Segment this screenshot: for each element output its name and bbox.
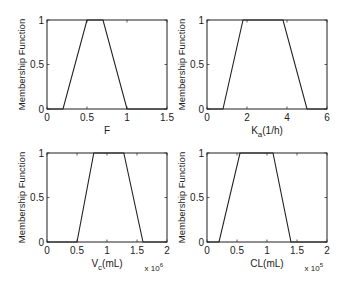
x-tick-label: 1.5 — [130, 245, 144, 256]
x-multiplier-label: x 106 — [145, 262, 164, 273]
y-tick-label: 1 — [38, 148, 44, 159]
x-multiplier-label: x 105 — [305, 262, 324, 273]
x-tick-label: 0.5 — [70, 245, 84, 256]
y-tick-label: 0.5 — [30, 192, 44, 203]
y-tick-label: 0 — [198, 237, 204, 248]
membership-curve — [47, 153, 167, 242]
panel-ka: 024600.51Membership FunctionKa(1/h) — [176, 15, 330, 140]
y-tick-label: 0.5 — [190, 59, 204, 70]
x-tick-label: 0 — [44, 245, 50, 256]
x-tick-label: 0 — [44, 112, 50, 123]
x-tick-label: 0 — [204, 245, 210, 256]
x-tick-label: 2 — [244, 112, 250, 123]
panel-f: 00.511.500.51Membership FunctionF — [16, 15, 174, 137]
y-tick-label: 0.5 — [190, 192, 204, 203]
membership-curve — [207, 20, 327, 109]
axes-frame — [207, 20, 327, 109]
x-tick-label: 4 — [284, 112, 290, 123]
x-tick-label: 1.5 — [290, 245, 304, 256]
y-axis-label: Membership Function — [176, 19, 187, 110]
membership-function-figure: 00.511.500.51Membership FunctionF024600.… — [0, 0, 341, 286]
x-axis-label: Vc(mL) — [91, 258, 122, 272]
x-tick-label: 2 — [324, 245, 330, 256]
y-axis-label: Membership Function — [16, 19, 27, 110]
x-tick-label: 1 — [124, 112, 130, 123]
x-tick-label: 1 — [104, 245, 110, 256]
x-axis-label: Ka(1/h) — [251, 125, 283, 139]
x-tick-label: 1 — [264, 245, 270, 256]
y-axis-label: Membership Function — [16, 152, 27, 243]
axes-frame — [47, 153, 167, 242]
y-axis-label: Membership Function — [176, 152, 187, 243]
y-tick-label: 1 — [198, 148, 204, 159]
y-tick-label: 0.5 — [30, 59, 44, 70]
y-tick-label: 1 — [198, 15, 204, 26]
y-tick-label: 1 — [38, 15, 44, 26]
panel-vc: 00.511.5200.51Membership FunctionVc(mL)x… — [16, 148, 170, 274]
x-tick-label: 0.5 — [80, 112, 94, 123]
x-tick-label: 6 — [324, 112, 330, 123]
y-tick-label: 0 — [38, 104, 44, 115]
axes-frame — [207, 153, 327, 242]
membership-curve — [207, 153, 327, 242]
x-tick-label: 2 — [164, 245, 170, 256]
x-axis-label: CL(mL) — [250, 258, 283, 269]
x-tick-label: 0 — [204, 112, 210, 123]
x-axis-label: F — [104, 125, 110, 136]
x-tick-label: 1.5 — [160, 112, 174, 123]
x-tick-label: 0.5 — [230, 245, 244, 256]
membership-curve — [47, 20, 167, 109]
y-tick-label: 0 — [198, 104, 204, 115]
panel-cl: 00.511.5200.51Membership FunctionCL(mL)x… — [176, 148, 330, 274]
y-tick-label: 0 — [38, 237, 44, 248]
